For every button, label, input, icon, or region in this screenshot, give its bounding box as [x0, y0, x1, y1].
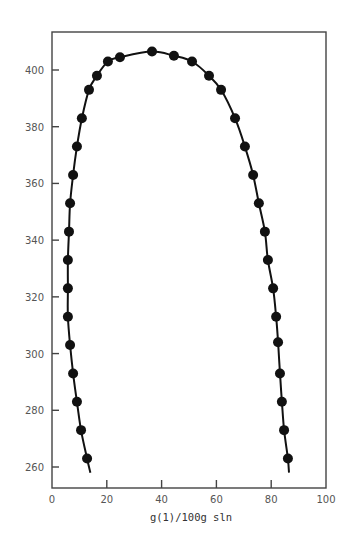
data-point [65, 198, 75, 208]
y-tick-label: 380 [25, 122, 44, 133]
chart: 260280300320340360380400 020406080100 g(… [0, 0, 362, 547]
y-tick-label: 280 [25, 405, 44, 416]
data-point [216, 85, 226, 95]
data-point [254, 198, 264, 208]
x-tick-label: 60 [210, 494, 223, 505]
x-tick-label: 0 [49, 494, 55, 505]
data-point [277, 397, 287, 407]
fitted-curve [68, 52, 289, 473]
data-point [268, 283, 278, 293]
y-tick-label: 360 [25, 178, 44, 189]
data-point [204, 71, 214, 81]
data-point [77, 113, 87, 123]
data-point [76, 425, 86, 435]
y-axis-ticks: 260280300320340360380400 [25, 65, 59, 473]
data-point [248, 170, 258, 180]
data-point [72, 142, 82, 152]
y-tick-label: 320 [25, 292, 44, 303]
data-point [271, 312, 281, 322]
data-point [283, 453, 293, 463]
data-point [279, 425, 289, 435]
y-tick-label: 300 [25, 349, 44, 360]
x-tick-label: 80 [265, 494, 278, 505]
data-point [147, 47, 157, 57]
data-point [84, 85, 94, 95]
data-point [103, 56, 113, 66]
data-point [64, 227, 74, 237]
data-point [115, 52, 125, 62]
data-point [240, 142, 250, 152]
x-tick-label: 20 [100, 494, 113, 505]
data-point [263, 255, 273, 265]
data-point [187, 56, 197, 66]
data-point [260, 227, 270, 237]
y-tick-label: 260 [25, 462, 44, 473]
data-point [65, 340, 75, 350]
x-tick-label: 40 [155, 494, 168, 505]
x-tick-label: 100 [316, 494, 335, 505]
data-point [275, 368, 285, 378]
data-point [169, 51, 179, 61]
data-points [63, 47, 293, 464]
data-point [63, 255, 73, 265]
y-tick-label: 400 [25, 65, 44, 76]
x-axis-ticks: 020406080100 [49, 480, 336, 505]
x-axis-title: g(1)/100g sln [150, 511, 232, 523]
data-point [63, 283, 73, 293]
data-point [68, 170, 78, 180]
plot-frame [52, 32, 326, 488]
y-tick-label: 340 [25, 235, 44, 246]
data-point [68, 368, 78, 378]
data-point [63, 312, 73, 322]
data-point [92, 71, 102, 81]
data-point [72, 397, 82, 407]
data-point [273, 337, 283, 347]
data-point [230, 113, 240, 123]
data-point [82, 453, 92, 463]
